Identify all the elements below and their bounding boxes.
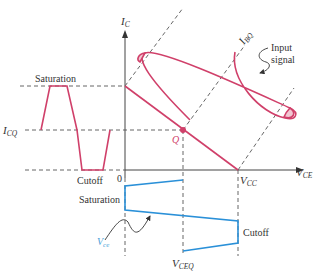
saturation-top-label: Saturation (35, 73, 76, 84)
vceq-label: VCEQ (172, 257, 194, 271)
icq-label: ICQ (2, 124, 18, 138)
q-label: Q (172, 134, 180, 145)
cutoff-bottom-label: Cutoff (243, 227, 270, 238)
vcc-label: VCC (240, 174, 258, 188)
input-signal-label-line1: Input (271, 42, 292, 53)
vce-pointer-arrow (105, 216, 150, 240)
collector-current-waveform (41, 86, 110, 170)
ibq-label: IBQ (235, 28, 255, 49)
cutoff-left-label: Cutoff (77, 175, 104, 186)
origin-label: 0 (117, 173, 122, 184)
input-signal-pointer-arrow (259, 48, 269, 73)
y-axis-label: IC (120, 15, 131, 29)
x-axis-label: VCE (296, 166, 313, 180)
x-axis (125, 167, 304, 173)
collector-emitter-voltage-waveform (125, 180, 238, 251)
q-point (180, 127, 186, 133)
transistor-load-line-diagram: Q IC VCE 0 Saturation ICQ Cutoff IBQ Inp… (0, 0, 319, 274)
input-signal-label-line2: signal (271, 54, 295, 65)
y-axis (122, 30, 128, 178)
vce-label: Vce (97, 236, 109, 249)
saturation-bottom-label: Saturation (79, 194, 120, 205)
dashed-guides (20, 8, 294, 256)
